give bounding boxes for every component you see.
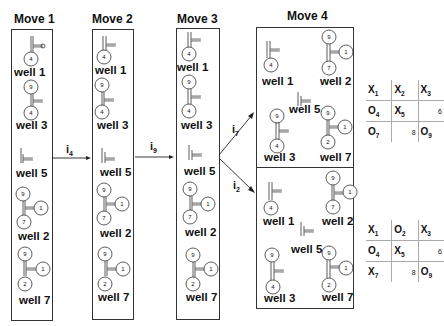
well-label: well 5	[16, 167, 47, 179]
arrow-label-i4: i4	[66, 143, 73, 157]
board-cell: X7	[366, 262, 392, 283]
board-cell: X5	[392, 101, 418, 122]
board-cell: O9	[418, 122, 444, 143]
board-cell-empty: 6	[418, 101, 444, 122]
well-label: well 7	[320, 151, 351, 163]
board-cell: X1	[366, 220, 392, 241]
well-label: well 7	[186, 291, 217, 303]
board-cell: X3	[418, 80, 444, 101]
board-cell: X5	[392, 241, 418, 262]
board-bottom: X1 O2 X3 O4 X5 6 X7 8 O9	[366, 220, 444, 282]
well-label: well 5	[291, 243, 322, 255]
board-cell: O9	[418, 262, 444, 283]
well-label: well 2	[322, 215, 353, 227]
move-4-bottom-molecules: 4 9 1 7 9 4 9	[264, 171, 357, 294]
well-label: well 3	[264, 292, 295, 304]
well-label: well 2	[185, 226, 216, 238]
arrow-move2-to-move3	[135, 155, 174, 159]
well-label: well 3	[181, 119, 212, 131]
board-cell: X1	[366, 80, 392, 101]
board-cell: X2	[392, 80, 418, 101]
well-label: well 1	[262, 75, 293, 87]
arrow-label-i9: i9	[150, 140, 157, 154]
well-label: well 5	[100, 166, 131, 178]
board-cell: O7	[366, 122, 392, 143]
well-label: well 3	[97, 119, 128, 131]
board-cell: O2	[392, 220, 418, 241]
well-label: well 7	[98, 291, 129, 303]
board-cell-empty: 8	[392, 122, 418, 143]
well-label: well 1	[177, 61, 208, 73]
board-cell: O4	[366, 101, 392, 122]
well-label: well 2	[100, 227, 131, 239]
well-label: well 5	[184, 165, 215, 177]
arrow-label-i7: i7	[232, 123, 239, 137]
well-label: well 3	[264, 151, 295, 163]
well-label: well 5	[289, 103, 320, 115]
well-label: well 1	[263, 215, 294, 227]
board-cell: X3	[418, 220, 444, 241]
board-cell: O4	[366, 241, 392, 262]
move-4-top-molecules: 4 9 1 7 9 4 9	[264, 30, 353, 153]
well-label: well 1	[14, 66, 45, 78]
well-label: well 7	[322, 291, 353, 303]
well-label: well 7	[19, 294, 50, 306]
well-label: well 2	[320, 75, 351, 87]
board-cell-empty: 8	[392, 262, 418, 283]
well-label: well 3	[16, 119, 47, 131]
board-top: X1 X2 X3 O4 X5 6 O7 8 O9	[366, 80, 444, 142]
well-label: well 1	[95, 64, 126, 76]
well-label: well 2	[18, 230, 49, 242]
board-cell-empty: 6	[418, 241, 444, 262]
arrow-label-i2: i2	[233, 179, 240, 193]
